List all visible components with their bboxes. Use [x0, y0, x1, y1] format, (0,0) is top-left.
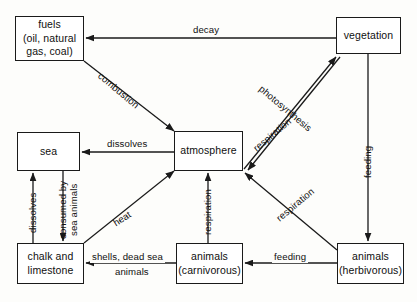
node-fuels-line-3: gas, coal): [26, 45, 73, 58]
node-fuels-line-1: fuels: [38, 18, 61, 31]
node-vegetation[interactable]: vegetation: [336, 17, 401, 54]
edge-label-consumed-by-sea-animals-line-2: sea animals: [68, 184, 80, 236]
edge-label-shells-line-2: animals: [113, 266, 151, 278]
carbon-cycle-diagram: fuels (oil, natural gas, coal) vegetatio…: [0, 0, 417, 302]
node-atmosphere[interactable]: atmosphere: [174, 131, 243, 171]
node-herbivorous-line-1: animals: [352, 250, 389, 263]
edge-label-feeding-herbivorous: feeding: [272, 251, 308, 263]
node-herbivorous-line-2: (herbivorous): [339, 264, 402, 277]
edge-label-decay: decay: [191, 24, 221, 36]
node-chalk-and-limestone[interactable]: chalk and limestone: [17, 243, 84, 284]
edge-label-respiration-carnivorous: respiration: [202, 189, 214, 235]
node-carnivorous-line-1: animals: [191, 250, 228, 263]
edge-label-dissolves-chalk-sea: dissolves: [27, 193, 39, 233]
edge-label-feeding-vegetation: feeding: [362, 146, 374, 178]
node-animals-herbivorous[interactable]: animals (herbivorous): [337, 243, 404, 284]
node-vegetation-label: vegetation: [344, 29, 393, 42]
node-carnivorous-line-2: (carnivorous): [178, 264, 241, 277]
node-chalk-line-1: chalk and: [28, 250, 74, 263]
edge-label-shells-line-1: shells, dead sea: [90, 251, 165, 263]
node-animals-carnivorous[interactable]: animals (carnivorous): [176, 243, 243, 284]
node-atmosphere-label: atmosphere: [180, 144, 236, 157]
node-sea[interactable]: sea: [17, 132, 80, 171]
edge-label-dissolves-atmosphere-sea: dissolves: [105, 138, 149, 150]
edge-heat: [84, 171, 174, 243]
node-chalk-line-2: limestone: [28, 264, 74, 277]
node-fuels-line-2: (oil, natural: [23, 32, 76, 45]
node-sea-label: sea: [40, 145, 57, 158]
node-fuels[interactable]: fuels (oil, natural gas, coal): [15, 16, 84, 61]
